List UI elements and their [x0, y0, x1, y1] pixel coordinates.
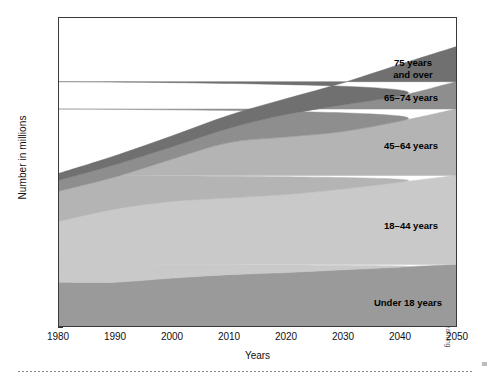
footer-divider [18, 371, 474, 372]
x-tick-label: 2040 [377, 331, 423, 342]
y-tick-mark [58, 327, 63, 328]
figure-container: Number in millions Years © Cengage Learn… [0, 0, 492, 383]
x-tick-label: 2010 [206, 331, 252, 342]
series-label-under18: Under 18 years [358, 297, 458, 309]
series-label-a65_74: 65–74 years [366, 92, 456, 104]
x-tick-label: 2030 [320, 331, 366, 342]
x-axis-title: Years [58, 350, 457, 361]
x-tick-label: 2020 [263, 331, 309, 342]
series-label-a18_44: 18–44 years [366, 220, 456, 232]
series-label-a45_64: 45–64 years [366, 140, 456, 152]
x-tick-label: 2050 [434, 331, 480, 342]
corner-mark [482, 362, 487, 366]
y-axis-title: Number in millions [17, 88, 28, 228]
x-tick-label: 1990 [92, 331, 138, 342]
x-tick-label: 2000 [149, 331, 195, 342]
x-tick-label: 1980 [35, 331, 81, 342]
series-label-a75plus: 75 years and over [370, 57, 456, 80]
